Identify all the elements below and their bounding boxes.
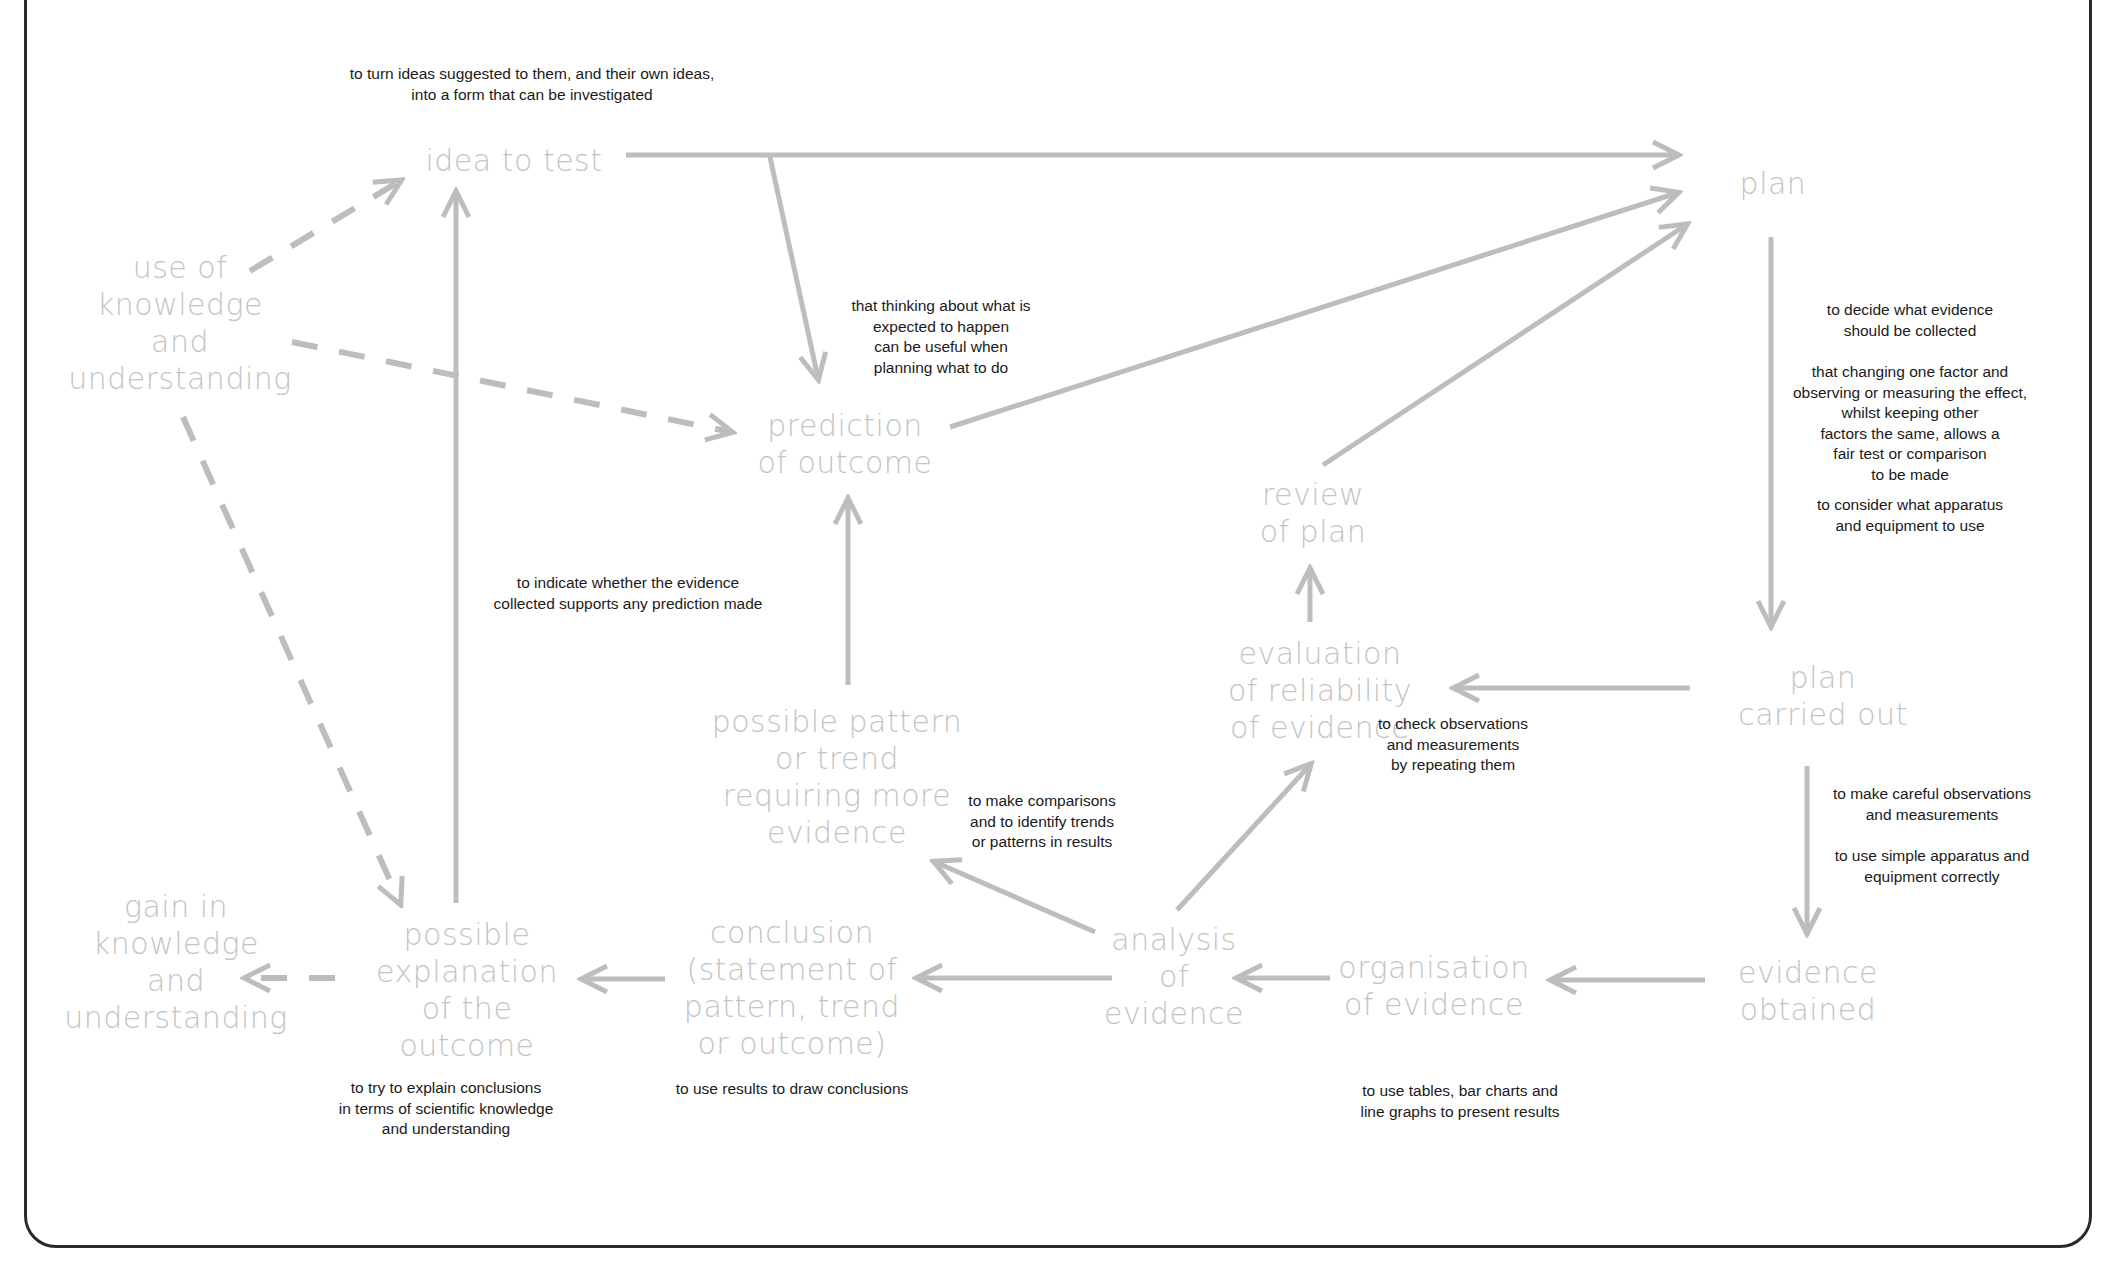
- note-line: into a form that can be investigated: [350, 85, 714, 106]
- note-line: and measurements: [1833, 805, 2031, 826]
- arrow-prediction-to-plan: [950, 193, 1677, 427]
- note-line: and measurements: [1378, 735, 1528, 756]
- node-line: knowledge: [64, 925, 288, 962]
- note-check: to check observations and measurements b…: [1378, 714, 1528, 776]
- node-gain-in-knowledge: gain in knowledge and understanding: [64, 888, 288, 1036]
- note-plan-criteria: to decide what evidence should be collec…: [1793, 300, 2027, 536]
- note-line: and understanding: [339, 1119, 554, 1140]
- note-line: by repeating them: [1378, 755, 1528, 776]
- node-line: of outcome: [757, 444, 932, 481]
- note-line: planning what to do: [851, 358, 1030, 379]
- arrow-analysis-to-evaluation: [1177, 765, 1310, 910]
- note-line: or patterns in results: [968, 832, 1115, 853]
- node-review-of-plan: review of plan: [1260, 476, 1367, 550]
- arrow-review-to-plan: [1323, 225, 1686, 465]
- node-prediction-of-outcome: prediction of outcome: [757, 407, 932, 481]
- node-line: knowledge: [68, 286, 292, 323]
- node-use-of-knowledge: use of knowledge and understanding: [68, 249, 292, 397]
- node-line: or outcome): [684, 1025, 900, 1062]
- note-line: to be made: [1793, 465, 2027, 486]
- node-line: evidence: [1104, 995, 1244, 1032]
- node-line: organisation: [1338, 949, 1529, 986]
- note-line: equipment correctly: [1833, 867, 2031, 888]
- node-line: possible pattern: [712, 703, 963, 740]
- node-line: requiring more: [712, 777, 963, 814]
- node-line: and: [64, 962, 288, 999]
- node-possible-pattern: possible pattern or trend requiring more…: [712, 703, 963, 851]
- dashed-arrow-knowledge-to-prediction: [292, 342, 731, 432]
- node-line: understanding: [68, 360, 292, 397]
- node-evidence-obtained: evidence obtained: [1738, 954, 1878, 1028]
- note-comparisons: to make comparisons and to identify tren…: [968, 791, 1115, 853]
- note-line: to check observations: [1378, 714, 1528, 735]
- node-line: conclusion: [684, 914, 900, 951]
- node-line: plan: [1740, 165, 1807, 202]
- note-line: fair test or comparison: [1793, 444, 2027, 465]
- node-line: understanding: [64, 999, 288, 1036]
- node-line: of: [1104, 958, 1244, 995]
- note-tables: to use tables, bar charts and line graph…: [1360, 1081, 1559, 1122]
- node-line: or trend: [712, 740, 963, 777]
- note-line: should be collected: [1793, 321, 2027, 342]
- arrow-idea-to-prediction: [770, 157, 818, 378]
- node-line: and: [68, 323, 292, 360]
- note-line: factors the same, allows a: [1793, 424, 2027, 445]
- note-idea: to turn ideas suggested to them, and the…: [350, 64, 714, 105]
- node-line: prediction: [757, 407, 932, 444]
- note-line: to consider what apparatus: [1793, 495, 2027, 516]
- note-line: and to identify trends: [968, 812, 1115, 833]
- arrow-analysis-to-pattern: [935, 862, 1095, 932]
- note-line: to make careful observations: [1833, 784, 2031, 805]
- node-line: of evidence: [1338, 986, 1529, 1023]
- node-plan-carried-out: plan carried out: [1738, 659, 1908, 733]
- note-prediction-thinking: that thinking about what is expected to …: [851, 296, 1030, 378]
- node-idea-to-test: idea to test: [425, 142, 602, 179]
- note-line: that changing one factor and: [1793, 362, 2027, 383]
- node-line: of plan: [1260, 513, 1367, 550]
- note-line: that thinking about what is: [851, 296, 1030, 317]
- node-possible-explanation: possible explanation of the outcome: [376, 916, 558, 1064]
- note-line: collected supports any prediction made: [494, 594, 763, 615]
- note-draw-conclusions: to use results to draw conclusions: [676, 1079, 909, 1100]
- note-careful: to make careful observations and measure…: [1833, 784, 2031, 887]
- note-line: observing or measuring the effect,: [1793, 383, 2027, 404]
- note-line: to use simple apparatus and: [1833, 846, 2031, 867]
- note-indicate: to indicate whether the evidence collect…: [494, 573, 763, 614]
- note-line: and equipment to use: [1793, 516, 2027, 537]
- node-organisation-of-evidence: organisation of evidence: [1338, 949, 1529, 1023]
- node-line: gain in: [64, 888, 288, 925]
- dashed-arrow-knowledge-to-explanation: [183, 417, 400, 903]
- node-line: idea to test: [425, 142, 602, 179]
- node-line: analysis: [1104, 921, 1244, 958]
- note-line: whilst keeping other: [1793, 403, 2027, 424]
- note-line: to decide what evidence: [1793, 300, 2027, 321]
- note-line: to try to explain conclusions: [339, 1078, 554, 1099]
- node-line: obtained: [1738, 991, 1878, 1028]
- note-line: line graphs to present results: [1360, 1102, 1559, 1123]
- note-line: to make comparisons: [968, 791, 1115, 812]
- node-line: explanation: [376, 953, 558, 990]
- note-line: to use results to draw conclusions: [676, 1079, 909, 1100]
- node-line: of the: [376, 990, 558, 1027]
- node-line: possible: [376, 916, 558, 953]
- node-line: outcome: [376, 1027, 558, 1064]
- node-line: pattern, trend: [684, 988, 900, 1025]
- node-line: use of: [68, 249, 292, 286]
- node-line: evaluation: [1228, 635, 1412, 672]
- note-line: expected to happen: [851, 317, 1030, 338]
- node-line: evidence: [1738, 954, 1878, 991]
- note-line: to turn ideas suggested to them, and the…: [350, 64, 714, 85]
- note-line: can be useful when: [851, 337, 1030, 358]
- node-line: evidence: [712, 814, 963, 851]
- node-line: of reliability: [1228, 672, 1412, 709]
- node-line: plan: [1738, 659, 1908, 696]
- node-line: carried out: [1738, 696, 1908, 733]
- node-conclusion: conclusion (statement of pattern, trend …: [684, 914, 900, 1062]
- note-line: to use tables, bar charts and: [1360, 1081, 1559, 1102]
- note-line: in terms of scientific knowledge: [339, 1099, 554, 1120]
- node-plan: plan: [1740, 165, 1807, 202]
- note-line: to indicate whether the evidence: [494, 573, 763, 594]
- note-explain: to try to explain conclusions in terms o…: [339, 1078, 554, 1140]
- node-line: (statement of: [684, 951, 900, 988]
- node-line: review: [1260, 476, 1367, 513]
